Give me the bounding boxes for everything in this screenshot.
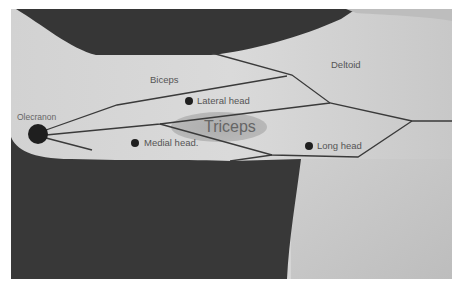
long-head-label: Long head <box>317 140 362 151</box>
deltoid-label: Deltoid <box>331 59 361 70</box>
lateral-head-dot <box>185 97 193 105</box>
long-head-dot <box>305 142 313 150</box>
olecranon-marker <box>28 124 48 144</box>
anatomy-drawing <box>11 9 452 279</box>
triceps-label: Triceps <box>204 118 256 136</box>
medial-head-label: Medial head. <box>144 137 198 148</box>
olecranon-label: Olecranon <box>17 112 56 122</box>
medial-head-dot <box>131 139 139 147</box>
lateral-head-label: Lateral head <box>197 95 250 106</box>
biceps-label: Biceps <box>150 74 179 85</box>
arm-anatomy-figure: Biceps Deltoid Olecranon Lateral head Me… <box>11 9 452 279</box>
